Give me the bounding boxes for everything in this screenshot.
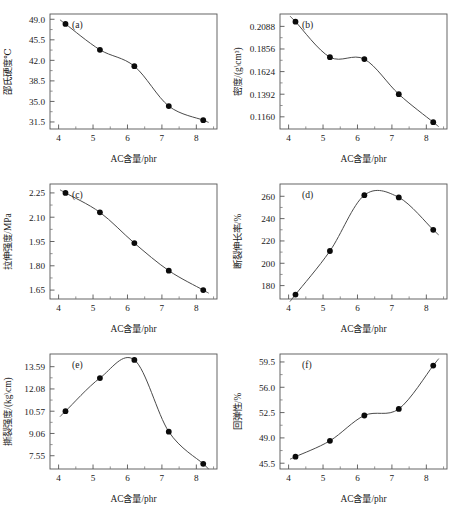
x-tick-label: 4 — [56, 473, 61, 483]
y-tick-label: 2.10 — [29, 213, 45, 223]
y-tick-label: 49.0 — [29, 15, 45, 25]
y-tick-label: 240 — [261, 214, 275, 224]
data-point — [327, 54, 333, 60]
plot-frame — [280, 354, 447, 469]
subplot-d: 18020022024026045678(d)AC含量/phr断裂伸长率/% — [230, 170, 459, 339]
y-tick-label: 42.0 — [29, 56, 45, 66]
plot-frame — [280, 184, 447, 299]
x-axis-title: AC含量/phr — [110, 153, 157, 164]
data-curve — [290, 359, 439, 460]
y-axis-title: 密度/(g\cm³) — [232, 47, 244, 95]
y-axis-title: 拉伸强度/MPa — [2, 213, 13, 270]
data-point — [327, 438, 333, 444]
data-point — [361, 192, 367, 198]
x-axis-title: AC含量/phr — [340, 323, 387, 334]
data-point — [293, 19, 299, 25]
y-tick-label: 52.5 — [259, 408, 275, 418]
panel-tag: (d) — [302, 189, 313, 201]
chart-e: 13.5912.0810.579.067.5545678(e)AC含量/phr撕… — [0, 340, 229, 509]
data-point — [361, 56, 367, 62]
data-point — [430, 227, 436, 233]
data-point — [97, 47, 103, 53]
y-axis-title: 撕裂强度/(kg\cm) — [2, 377, 14, 445]
y-tick-label: 0.1856 — [250, 44, 276, 54]
x-axis-title: AC含量/phr — [110, 323, 157, 334]
y-tick-label: 0.1392 — [250, 90, 276, 100]
data-point — [200, 461, 206, 467]
x-tick-label: 8 — [424, 133, 429, 143]
data-point — [430, 363, 436, 369]
x-tick-label: 8 — [424, 473, 429, 483]
x-axis-title: AC含量/phr — [110, 493, 157, 504]
data-point — [430, 119, 436, 125]
x-axis-title: AC含量/phr — [340, 493, 387, 504]
panel-tag: (f) — [302, 359, 312, 371]
data-curve — [290, 16, 439, 127]
y-axis-title: 邵氏硬度℃ — [2, 48, 13, 95]
chart-f: 59.556.052.549.045.545678(f)AC含量/phr回弹性/… — [230, 340, 459, 509]
x-tick-label: 7 — [160, 473, 165, 483]
data-point — [63, 190, 69, 196]
data-point — [200, 287, 206, 293]
data-point — [166, 429, 172, 435]
data-point — [396, 406, 402, 412]
subplot-e: 13.5912.0810.579.067.5545678(e)AC含量/phr撕… — [0, 340, 229, 509]
x-tick-label: 6 — [355, 303, 360, 313]
y-tick-label: 220 — [261, 236, 275, 246]
y-tick-label: 45.5 — [29, 35, 45, 45]
x-tick-label: 5 — [321, 473, 326, 483]
data-point — [131, 240, 137, 246]
y-tick-label: 260 — [261, 192, 275, 202]
y-tick-label: 1.65 — [29, 285, 45, 295]
data-point — [293, 292, 299, 298]
data-point — [200, 117, 206, 123]
panel-tag: (a) — [72, 19, 83, 31]
y-tick-label: 10.57 — [24, 407, 45, 417]
subplot-a: 49.045.542.038.535.031.545678(a)AC含量/phr… — [0, 0, 229, 169]
y-tick-label: 2.25 — [29, 188, 45, 198]
x-tick-label: 6 — [355, 133, 360, 143]
y-tick-label: 38.5 — [29, 76, 45, 86]
x-tick-label: 8 — [194, 133, 199, 143]
y-tick-label: 180 — [261, 281, 275, 291]
data-point — [97, 209, 103, 215]
x-tick-label: 4 — [286, 473, 291, 483]
x-tick-label: 7 — [390, 133, 395, 143]
data-point — [396, 91, 402, 97]
y-tick-label: 1.95 — [29, 237, 45, 247]
y-tick-label: 12.08 — [24, 384, 45, 394]
data-point — [166, 103, 172, 109]
subplot-f: 59.556.052.549.045.545678(f)AC含量/phr回弹性/… — [230, 340, 459, 509]
x-tick-label: 8 — [194, 473, 199, 483]
x-tick-label: 4 — [286, 303, 291, 313]
subplot-c: 2.252.101.951.801.6545678(c)AC含量/phr拉伸强度… — [0, 170, 229, 339]
x-tick-label: 6 — [125, 303, 130, 313]
data-point — [131, 357, 137, 363]
x-tick-label: 8 — [424, 303, 429, 313]
data-point — [327, 248, 333, 254]
y-tick-label: 0.1624 — [250, 67, 276, 77]
x-tick-label: 4 — [56, 303, 61, 313]
x-tick-label: 4 — [56, 133, 61, 143]
x-tick-label: 5 — [91, 303, 96, 313]
data-point — [166, 268, 172, 274]
x-tick-label: 7 — [160, 133, 165, 143]
x-tick-label: 8 — [194, 303, 199, 313]
x-tick-label: 6 — [125, 473, 130, 483]
x-tick-label: 5 — [321, 303, 326, 313]
chart-a: 49.045.542.038.535.031.545678(a)AC含量/phr… — [0, 0, 229, 169]
x-tick-label: 5 — [91, 473, 96, 483]
panel-tag: (b) — [302, 19, 313, 31]
y-tick-label: 45.5 — [259, 459, 275, 469]
panel-tag: (c) — [72, 189, 83, 201]
plot-frame — [280, 14, 447, 129]
x-axis-title: AC含量/phr — [340, 153, 387, 164]
data-point — [131, 63, 137, 69]
chart-b: 0.20880.18560.16240.13920.116045678(b)AC… — [230, 0, 459, 169]
x-tick-label: 5 — [321, 133, 326, 143]
y-axis-title: 断裂伸长率/% — [232, 214, 243, 270]
y-tick-label: 0.2088 — [250, 22, 276, 32]
y-tick-label: 0.1160 — [250, 112, 275, 122]
x-tick-label: 5 — [91, 133, 96, 143]
y-tick-label: 56.0 — [259, 383, 275, 393]
